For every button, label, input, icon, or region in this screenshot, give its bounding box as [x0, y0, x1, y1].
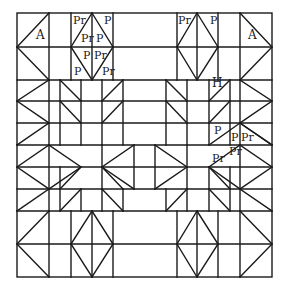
bottom-band-grid — [17, 211, 272, 277]
piece-label-p: P — [74, 65, 82, 78]
piece-label-pr: Pr — [73, 14, 86, 27]
piece-label-pr: Pr — [212, 152, 225, 165]
quilt-block-diagram: APrPPrPPPrPPrPrPAHPPPrPrPr — [0, 0, 286, 295]
piece-label-p: P — [210, 14, 218, 27]
piece-label-pr: Pr — [81, 32, 94, 45]
piece-label-pr: Pr — [229, 145, 242, 158]
piece-label-h: H — [212, 76, 222, 90]
piece-label-p: P — [214, 124, 222, 137]
top-band-grid — [17, 13, 272, 80]
piece-label-pr: Pr — [102, 65, 115, 78]
piece-label-a: A — [35, 28, 45, 42]
piece-label-a: A — [247, 28, 257, 42]
piece-labels: APrPPrPPPrPPrPrPAHPPPrPrPr — [35, 14, 257, 165]
piece-label-p: P — [96, 32, 104, 45]
piece-label-p: P — [83, 49, 91, 62]
piece-label-pr: Pr — [241, 131, 254, 144]
piece-label-p: P — [231, 131, 239, 144]
piece-label-pr: Pr — [94, 49, 107, 62]
piece-label-p: P — [104, 14, 112, 27]
piece-label-pr: Pr — [178, 14, 191, 27]
